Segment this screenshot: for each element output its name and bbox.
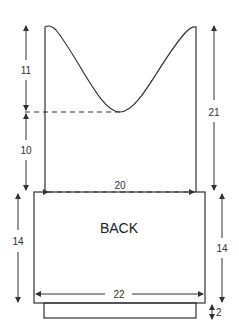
dim-shoulder-width: 20 (114, 180, 126, 191)
dim-body-right-height: 14 (216, 243, 228, 254)
dim-right-total-height: 21 (208, 107, 220, 118)
dim-body-width: 22 (113, 289, 125, 300)
dim-body-left-height: 14 (12, 236, 24, 247)
schematic-diagram: 11 10 21 20 14 14 22 2 BACK (0, 0, 239, 336)
dim-armhole-lower: 10 (20, 145, 32, 156)
piece-label: BACK (100, 220, 139, 236)
garment-outline (34, 26, 205, 318)
dim-armhole-upper: 11 (21, 65, 32, 76)
dimension-lines (18, 26, 222, 319)
guide-lines (25, 112, 194, 192)
dim-rib-height: 2 (216, 307, 222, 318)
